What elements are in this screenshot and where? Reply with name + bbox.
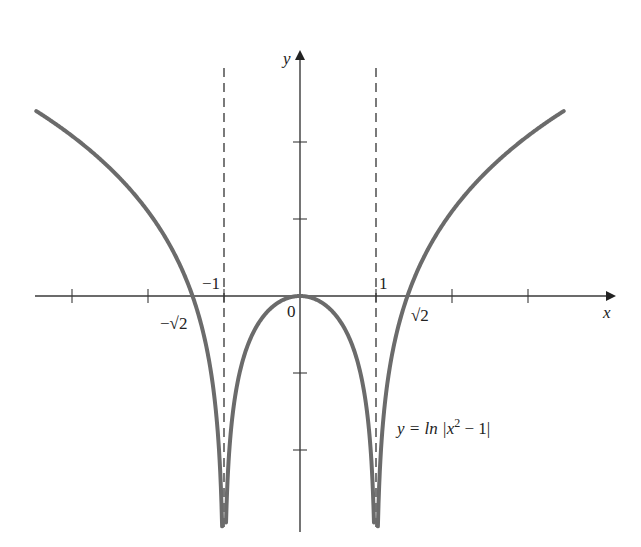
curve-branch bbox=[378, 111, 564, 526]
tick-label-sqrt2: √2 bbox=[411, 306, 429, 325]
function-plot: y x 0 −√2 −1 1 √2 y = ln |x2 − 1| bbox=[0, 0, 641, 547]
fn-suffix: − 1| bbox=[460, 419, 490, 438]
tick-label-neg-1: −1 bbox=[202, 274, 220, 293]
y-axis-label: y bbox=[281, 49, 291, 68]
function-label: y = ln |x2 − 1| bbox=[395, 416, 490, 438]
tick-label-neg-sqrt2: −√2 bbox=[160, 314, 187, 333]
curve-branch bbox=[36, 111, 222, 526]
tick-label-1: 1 bbox=[379, 274, 388, 293]
fn-prefix: y = ln |x bbox=[395, 419, 455, 438]
origin-label: 0 bbox=[287, 302, 296, 321]
x-axis-label: x bbox=[602, 303, 611, 322]
